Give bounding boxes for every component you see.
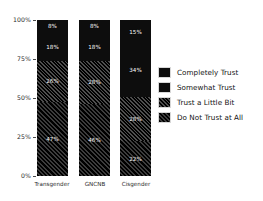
y-axis: 100% 75% 50% 25% 0% (0, 20, 36, 176)
bar-segment-somewhat-trust: 34% (120, 44, 151, 98)
y-tick-label-100: 100% (13, 15, 31, 25)
bar-segment-trust-a-little-bit: 28% (79, 61, 110, 105)
bar-segment-completely-trust: 15% (120, 20, 151, 44)
legend: Completely Trust Somewhat Trust Trust a … (158, 67, 262, 127)
y-tick-label-25: 25% (17, 132, 31, 142)
bar-segment-label: 8% (37, 23, 68, 29)
bar-segment-label: 18% (37, 44, 68, 50)
stacked-bar-chart: 100% 75% 50% 25% 0% 8%18%26%47% 8%18%28%… (0, 0, 263, 201)
bar-segment-label: 22% (120, 156, 151, 162)
bar-cisgender: 15%34%28%22% (120, 20, 151, 176)
legend-label-do-not-trust-at-all: Do Not Trust at All (177, 113, 243, 122)
bar-transgender: 8%18%26%47% (37, 20, 68, 176)
legend-swatch-do-not-trust-at-all (158, 112, 171, 123)
bar-segment-trust-a-little-bit: 26% (37, 61, 68, 102)
bar-segment-do-not-trust-at-all: 22% (120, 141, 151, 176)
legend-swatch-completely-trust (158, 67, 171, 78)
bar-segment-label: 26% (37, 78, 68, 84)
y-tick-label-0: 0% (21, 171, 31, 181)
legend-swatch-somewhat-trust (158, 82, 171, 93)
bar-segment-completely-trust: 8% (37, 20, 68, 33)
y-tick-label-75: 75% (17, 54, 31, 64)
bar-segment-label: 28% (120, 116, 151, 122)
bar-segment-do-not-trust-at-all: 47% (37, 102, 68, 176)
bar-segment-label: 28% (79, 79, 110, 85)
bar-segment-somewhat-trust: 18% (37, 33, 68, 61)
y-tick-75: 75% (17, 54, 36, 64)
legend-item-do-not-trust-at-all: Do Not Trust at All (158, 112, 262, 123)
legend-item-completely-trust: Completely Trust (158, 67, 262, 78)
bar-segment-do-not-trust-at-all: 46% (79, 104, 110, 176)
y-tick-100: 100% (13, 15, 36, 25)
legend-label-somewhat-trust: Somewhat Trust (177, 83, 235, 92)
bar-segment-label: 47% (37, 136, 68, 142)
legend-label-trust-a-little-bit: Trust a Little Bit (177, 98, 234, 107)
y-tick-50: 50% (17, 93, 36, 103)
bar-segment-label: 15% (120, 29, 151, 35)
bar-segment-trust-a-little-bit: 28% (120, 97, 151, 141)
legend-item-trust-a-little-bit: Trust a Little Bit (158, 97, 262, 108)
bar-segment-completely-trust: 8% (79, 20, 110, 32)
y-tick-label-50: 50% (17, 93, 31, 103)
bar-segment-label: 34% (120, 67, 151, 73)
y-tick-0: 0% (21, 171, 36, 181)
bar-segment-somewhat-trust: 18% (79, 32, 110, 60)
bar-gncnb: 8%18%28%46% (79, 20, 110, 176)
bar-segment-label: 8% (79, 23, 110, 29)
legend-item-somewhat-trust: Somewhat Trust (158, 82, 262, 93)
legend-swatch-trust-a-little-bit (158, 97, 171, 108)
bar-segment-label: 46% (79, 137, 110, 143)
x-axis: Transgender GNCNB Cisgender (36, 178, 152, 196)
y-tick-25: 25% (17, 132, 36, 142)
legend-label-completely-trust: Completely Trust (177, 68, 238, 77)
plot-area: 8%18%26%47% 8%18%28%46% 15%34%28%22% (36, 20, 152, 176)
x-label-cisgender: Cisgender (111, 181, 161, 187)
bar-segment-label: 18% (79, 44, 110, 50)
